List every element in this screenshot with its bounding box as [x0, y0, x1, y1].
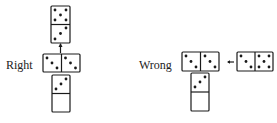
domino-right-middle	[43, 54, 80, 72]
domino-diagram	[0, 0, 277, 123]
pips-three	[204, 55, 217, 69]
domino-wrong-bottom	[191, 73, 209, 111]
pips-three	[185, 55, 198, 69]
pips-three	[46, 57, 59, 70]
arrowhead-left-icon	[227, 60, 230, 63]
pips-three	[54, 27, 68, 41]
pips-three	[194, 76, 207, 89]
pips-three	[55, 78, 68, 91]
domino-right-bottom	[52, 75, 70, 112]
domino-wrong-right	[237, 52, 273, 71]
domino-right-top	[51, 6, 70, 43]
pips-three	[240, 55, 253, 69]
domino-wrong-left	[182, 52, 219, 71]
pips-three	[64, 57, 77, 70]
pips-five	[54, 9, 68, 22]
pips-five	[258, 55, 271, 69]
